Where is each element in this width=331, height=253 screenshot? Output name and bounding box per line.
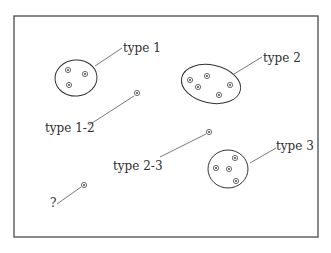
point-center-icon [189,79,191,81]
group-label: type 1-2 [45,121,95,135]
cluster-boundary [178,59,245,109]
point-center-icon [218,94,220,96]
group-label: type 3 [276,139,314,153]
cluster-diagram: type 1type 2type 1-2type 2-3type 3? [0,0,331,253]
point-center-icon [228,168,230,170]
point-center-icon [206,75,208,77]
point-center-icon [67,69,69,71]
group-type-2: type 2 [178,51,301,109]
leader-line [160,134,206,157]
point-center-icon [83,184,85,186]
leader-line [57,187,81,204]
group-label: ? [50,196,56,210]
group-type-2-3: type 2-3 [113,129,212,173]
group-label: type 1 [123,41,161,55]
point-center-icon [215,167,217,169]
point-center-icon [234,157,236,159]
group-label: type 2 [263,51,301,65]
point-center-icon [136,92,138,94]
leader-line [95,48,122,66]
point-center-icon [235,180,237,182]
group-type-1-2: type 1-2 [45,90,140,135]
cluster-boundary [54,58,99,98]
point-center-icon [68,84,70,86]
group-unknown: ? [50,182,87,210]
group-type-3: type 3 [208,139,314,188]
group-label: type 2-3 [113,159,163,173]
group-type-1: type 1 [54,41,161,98]
point-center-icon [84,73,86,75]
groups-layer: type 1type 2type 1-2type 2-3type 3? [45,41,314,210]
leader-line [250,148,276,163]
point-center-icon [197,86,199,88]
point-center-icon [229,84,231,86]
leader-line [89,96,134,125]
point-center-icon [208,131,210,133]
leader-line [234,57,262,74]
